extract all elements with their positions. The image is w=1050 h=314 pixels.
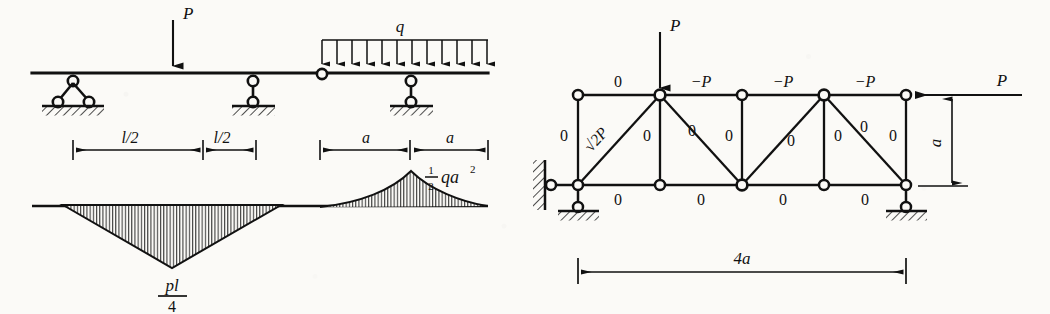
half-numerator: 1 (428, 164, 434, 176)
internal-hinge (317, 69, 327, 79)
truss-load-horizontal-P-label: P (996, 71, 1007, 90)
moment-area-negative (60, 200, 286, 276)
force-diag-4: 0 (860, 118, 868, 135)
qa-label: qa (441, 167, 459, 187)
force-top-2: −P (691, 73, 712, 90)
support-c-link (390, 76, 433, 116)
left-figure: P q (32, 4, 492, 314)
truss-support-left (533, 160, 599, 221)
bottom-chord-force-labels: 0 0 0 0 (614, 191, 869, 208)
truss-load-vertical-P: P (660, 16, 680, 88)
truss-dim-span-label: 4a (734, 249, 751, 268)
force-diag-sqrt2P: √2P (581, 124, 612, 155)
force-top-3: −P (773, 73, 794, 90)
truss-dim-height-label: a (926, 139, 945, 148)
dimension-a: a a (320, 129, 488, 160)
distributed-load-q-label: q (396, 17, 405, 36)
truss-load-vertical-P-label: P (669, 16, 680, 35)
distributed-load-q: q (322, 17, 488, 64)
right-figure: P P 0 −P −P −P 0 0 0 0 0 0 0 0 0 (533, 16, 1022, 284)
force-diag-3: 0 (787, 132, 795, 149)
force-vert-2: 0 (643, 127, 651, 144)
figure-canvas: P q (0, 0, 1050, 314)
force-diag-2: 0 (688, 122, 696, 139)
point-load-P: P (173, 4, 193, 66)
force-bot-1: 0 (614, 191, 622, 208)
force-vert-1: 0 (560, 127, 568, 144)
truss-dimension-height: a (918, 99, 968, 186)
force-top-4: −P (855, 73, 876, 90)
moment-area-positive (316, 166, 492, 212)
force-vert-5: 0 (889, 127, 897, 144)
dim-a-right-label: a (446, 129, 454, 146)
dim-a-left-label: a (362, 129, 370, 146)
truss-support-right (886, 189, 927, 221)
qa-exponent: 2 (470, 163, 476, 175)
point-load-P-label: P (182, 4, 193, 23)
force-top-1: 0 (614, 73, 622, 90)
diagram-svg: P q (0, 0, 1050, 314)
half-denominator: 2 (428, 180, 434, 192)
force-bot-3: 0 (779, 191, 787, 208)
truss-members (578, 95, 906, 185)
pl-numerator: pl (164, 276, 179, 295)
dimension-l: l/2 l/2 (73, 129, 256, 160)
dim-l-half-left-label: l/2 (122, 129, 139, 146)
support-a-pin (42, 76, 104, 116)
force-vert-4: 0 (834, 127, 842, 144)
support-b-link (232, 76, 275, 116)
bending-moment-diagram: pl 4 1 2 qa 2 (32, 163, 492, 314)
force-bot-4: 0 (861, 191, 869, 208)
top-chord-force-labels: 0 −P −P −P (614, 73, 876, 90)
truss-dimension-span: 4a (578, 249, 906, 284)
dim-l-half-right-label: l/2 (214, 129, 231, 146)
moment-label-half-qa2: 1 2 qa 2 (425, 163, 476, 192)
moment-label-pl-over-4: pl 4 (158, 276, 187, 314)
force-vert-3: 0 (725, 127, 733, 144)
pl-denominator: 4 (168, 298, 176, 314)
force-bot-2: 0 (697, 191, 705, 208)
truss-load-horizontal-P: P (916, 71, 1022, 95)
